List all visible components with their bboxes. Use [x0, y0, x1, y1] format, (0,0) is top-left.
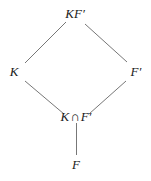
intersection-symbol: ∩: [69, 109, 80, 124]
node-intersection-left-label: K: [61, 109, 70, 124]
prime-mark: ′: [89, 109, 92, 124]
node-intersection-right-label: F: [81, 109, 89, 124]
edge-k-to-kfprime: [25, 22, 66, 63]
node-fprime-label: F: [131, 64, 139, 79]
prime-mark: ′: [139, 64, 142, 79]
lattice-edges: [0, 0, 151, 181]
node-k-label: K: [10, 64, 19, 79]
field-lattice-diagram: KF′ K F′ K∩F′ F: [0, 0, 151, 181]
prime-mark: ′: [82, 6, 85, 21]
edge-fprime-to-kfprime: [85, 24, 127, 62]
node-kfprime: KF′: [65, 7, 84, 21]
node-f: F: [72, 158, 80, 172]
node-k-intersect-fprime: K∩F′: [61, 110, 92, 124]
node-k: K: [10, 65, 19, 79]
node-f-label: F: [72, 157, 80, 172]
edge-intersection-to-k: [25, 81, 64, 114]
edge-intersection-to-fprime: [89, 81, 126, 114]
node-fprime: F′: [131, 65, 142, 79]
node-kfprime-label: KF: [65, 6, 82, 21]
